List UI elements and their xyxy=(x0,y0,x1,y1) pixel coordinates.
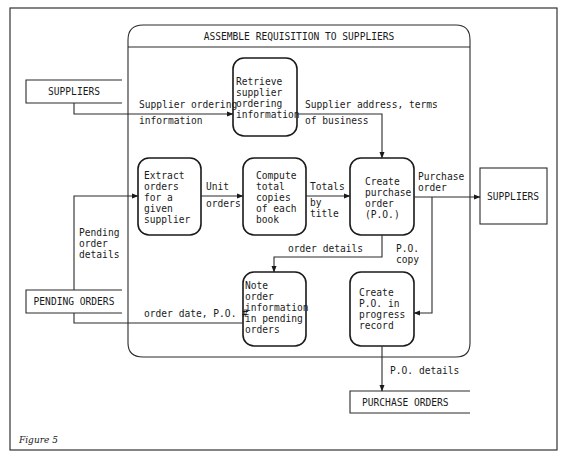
svg-text:Totals: Totals xyxy=(310,181,345,192)
svg-text:P.O. in: P.O. in xyxy=(359,298,399,309)
process-compute-totals: Compute total copies of each book xyxy=(243,158,306,235)
svg-text:orders: orders xyxy=(144,181,179,192)
svg-text:of each: of each xyxy=(256,203,296,214)
svg-text:of business: of business xyxy=(305,115,369,126)
svg-text:orders: orders xyxy=(206,198,241,209)
svg-text:title: title xyxy=(310,208,339,219)
svg-text:order: order xyxy=(365,198,394,209)
data-store-purchase-orders: PURCHASE ORDERS xyxy=(350,391,470,413)
flow-order-details: order details xyxy=(274,235,382,272)
svg-text:record: record xyxy=(359,320,394,331)
flow-totals-by-title: Totals by title xyxy=(306,181,350,219)
svg-text:by: by xyxy=(310,197,322,208)
svg-text:Extract: Extract xyxy=(144,170,184,181)
svg-text:order details: order details xyxy=(288,243,363,254)
svg-text:information: information xyxy=(245,302,309,313)
svg-text:progress: progress xyxy=(359,309,405,320)
svg-text:for a: for a xyxy=(144,192,173,203)
process-extract-orders: Extract orders for a given supplier xyxy=(138,158,201,235)
figure-5-data-flow-diagram: ASSEMBLE REQUISITION TO SUPPLIERS Retrie… xyxy=(0,0,567,465)
svg-text:PURCHASE ORDERS: PURCHASE ORDERS xyxy=(362,397,449,408)
svg-text:Create: Create xyxy=(359,287,394,298)
svg-text:purchase: purchase xyxy=(365,187,411,198)
svg-text:P.O. details: P.O. details xyxy=(390,365,459,376)
flow-po-details: P.O. details xyxy=(382,346,459,391)
figure-caption: Figure 5 xyxy=(18,435,58,445)
flow-order-date-po: order date, P.O. # xyxy=(74,308,248,323)
process-title: ASSEMBLE REQUISITION TO SUPPLIERS xyxy=(204,31,395,42)
flow-unit-orders: Unit orders xyxy=(201,181,243,209)
flow-supplier-address-terms: Supplier address, terms of business xyxy=(297,99,438,158)
svg-text:Retrieve: Retrieve xyxy=(236,76,282,87)
svg-text:book: book xyxy=(256,214,279,225)
svg-text:Supplier ordering: Supplier ordering xyxy=(139,99,237,110)
svg-text:Purchase: Purchase xyxy=(418,171,464,182)
process-retrieve-supplier-info: Retrieve supplier ordering information xyxy=(233,58,300,136)
data-store-pending-orders: PENDING ORDERS xyxy=(26,290,122,313)
process-note-order-info: Note order information in pending orders xyxy=(243,272,309,346)
svg-text:in pending: in pending xyxy=(245,313,303,324)
svg-text:Pending: Pending xyxy=(79,227,119,238)
svg-text:given: given xyxy=(144,203,173,214)
svg-text:order: order xyxy=(245,291,274,302)
svg-text:supplier: supplier xyxy=(236,87,282,98)
svg-text:Create: Create xyxy=(365,176,400,187)
svg-text:Unit: Unit xyxy=(206,181,229,192)
svg-text:ordering: ordering xyxy=(236,98,282,109)
svg-text:copies: copies xyxy=(256,192,291,203)
svg-text:supplier: supplier xyxy=(144,214,190,225)
svg-text:order: order xyxy=(418,182,447,193)
svg-text:Compute: Compute xyxy=(256,170,297,181)
svg-text:copy: copy xyxy=(396,254,419,265)
svg-text:order: order xyxy=(79,238,108,249)
svg-text:details: details xyxy=(79,249,119,260)
svg-text:Note: Note xyxy=(245,280,268,291)
process-create-purchase-order: Create purchase order (P.O.) xyxy=(350,158,414,235)
svg-text:SUPPLIERS: SUPPLIERS xyxy=(48,86,100,97)
svg-text:PENDING ORDERS: PENDING ORDERS xyxy=(34,296,115,307)
process-create-po-in-progress: Create P.O. in progress record xyxy=(350,272,414,346)
svg-text:information: information xyxy=(139,115,203,126)
svg-text:total: total xyxy=(256,181,285,192)
svg-text:(P.O.): (P.O.) xyxy=(365,209,400,220)
svg-text:orders: orders xyxy=(245,324,280,335)
svg-text:P.O.: P.O. xyxy=(396,243,419,254)
data-store-suppliers-left: SUPPLIERS xyxy=(26,80,122,103)
svg-text:order date, P.O. #: order date, P.O. # xyxy=(144,308,248,319)
svg-text:SUPPLIERS: SUPPLIERS xyxy=(487,191,539,202)
svg-text:information: information xyxy=(236,109,300,120)
entity-suppliers-right: SUPPLIERS xyxy=(480,168,547,224)
svg-text:Supplier address, terms: Supplier address, terms xyxy=(305,99,438,110)
